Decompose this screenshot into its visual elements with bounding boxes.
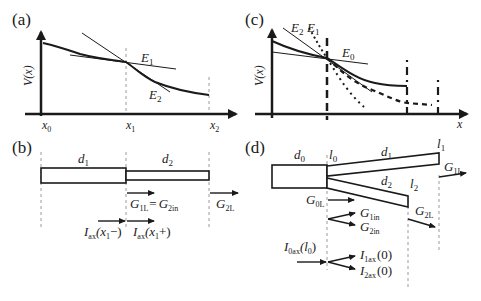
segment-d2: [126, 171, 209, 180]
label-d0: d0: [294, 147, 306, 164]
panel-a-label: (a): [12, 10, 31, 29]
tangent-label-e0-c: E0: [341, 45, 355, 62]
panel-b: (b) d1 d2 G1L=G2in G2L Iax(x1−) Iax(x1+): [12, 138, 238, 241]
label-i0ax: I0ax(l0): [283, 239, 316, 256]
xlabel-c: x: [456, 117, 463, 131]
label-i2ax: I2ax(0): [359, 263, 392, 280]
segment-d0: [272, 165, 327, 188]
label-iax-minus: Iax(x1−): [83, 224, 122, 241]
arrow-g1in: [328, 213, 355, 219]
segment-d1: [41, 168, 126, 183]
panel-d: (d) d0 d1 d2 l0 l1 l2 G0L: [245, 136, 466, 290]
panel-c-label: (c): [245, 10, 264, 29]
label-d1-d: d1: [381, 144, 392, 161]
panel-a: (a) V(x) E1 E2 x0 x1 x2: [12, 10, 236, 134]
panel-d-label: (d): [245, 138, 265, 157]
arrow-g2l-d: [408, 219, 435, 227]
panel-b-label: (b): [12, 138, 32, 157]
label-l0: l0: [329, 147, 338, 164]
label-i1ax: I1ax(0): [359, 247, 392, 264]
label-l1: l1: [437, 136, 445, 153]
label-g2l-d: G2L: [415, 203, 433, 220]
arrow-i2ax: [328, 262, 355, 269]
branch-curve-d1: [327, 58, 432, 105]
tangent-label-e2: E2: [148, 87, 161, 104]
label-d1: d1: [78, 151, 89, 168]
ylabel-a: V(x): [21, 65, 35, 86]
tick-x1: x1: [125, 118, 135, 134]
tangent-label-e1-c: E1: [306, 20, 319, 37]
label-d2: d2: [162, 151, 173, 168]
tangent-label-e2-c: E2: [290, 20, 303, 37]
arrow-i1ax: [328, 256, 355, 262]
ylabel-c: V(x): [252, 65, 266, 86]
label-d2-d: d2: [381, 173, 392, 190]
arrow-g2in: [328, 219, 355, 225]
label-g2l: G2L: [216, 196, 234, 213]
segment-d2-branch: [327, 178, 408, 207]
tick-x2: x2: [209, 118, 219, 134]
label-g0l: G0L: [306, 192, 324, 209]
tangent-label-e1: E1: [140, 50, 153, 67]
panel-c: (c) V(x) x E2 E1 E0: [245, 10, 467, 131]
figure-canvas: (a) V(x) E1 E2 x0 x1 x2 (b): [0, 0, 481, 301]
label-g1l-eq-g2in: G1L=G2in: [130, 196, 178, 213]
tick-x0: x0: [41, 118, 51, 134]
label-iax-plus: Iax(x1+): [132, 224, 171, 241]
label-l2: l2: [410, 176, 418, 193]
